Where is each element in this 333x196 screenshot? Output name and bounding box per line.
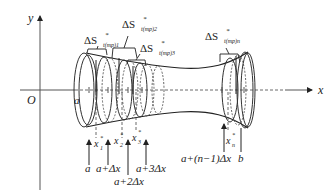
svg-text:1: 1 — [100, 145, 103, 151]
label-a: a — [85, 162, 91, 174]
svg-text:*: * — [226, 27, 230, 35]
label-b: b — [238, 152, 244, 164]
svg-text:*: * — [138, 129, 141, 135]
svg-text:x: x — [131, 132, 137, 143]
sample-point-2: x * 2 — [113, 132, 123, 148]
svg-text:ΔS: ΔS — [84, 34, 97, 46]
svg-text:x: x — [113, 135, 119, 146]
surface-of-revolution-diagram: y x O a Δ — [0, 0, 333, 196]
svg-text:t(mp)1: t(mp)1 — [103, 42, 119, 49]
svg-text:ΔS: ΔS — [205, 30, 218, 42]
svg-text:*: * — [105, 31, 109, 39]
label-a-plus-n-minus-1-dx: a+(n−1)Δx — [181, 152, 231, 165]
surface-label-3: ΔS * t(mp)3 — [140, 39, 175, 57]
svg-text:x: x — [93, 138, 99, 149]
svg-text:*: * — [232, 132, 235, 138]
surface-label-1: ΔS * t(mp)1 — [84, 31, 119, 49]
x-axis-label: x — [317, 83, 324, 97]
sample-point-1: x * 1 — [93, 135, 103, 151]
svg-text:2: 2 — [120, 142, 123, 148]
label-a-plus-dx: a+Δx — [96, 162, 120, 174]
svg-text:t(mp)3: t(mp)3 — [159, 50, 175, 57]
surface-label-n: ΔS * t(mp)n — [205, 27, 240, 45]
y-axis-label: y — [27, 11, 34, 25]
label-a-plus-3dx: a+3Δx — [136, 162, 166, 174]
svg-text:*: * — [143, 15, 147, 23]
label-a-plus-2dx: a+2Δx — [114, 175, 144, 187]
svg-text:ΔS: ΔS — [122, 18, 135, 30]
svg-text:ΔS: ΔS — [140, 42, 153, 54]
origin-label: O — [27, 93, 36, 107]
svg-text:x: x — [225, 135, 231, 146]
svg-text:3: 3 — [137, 139, 141, 145]
a-axis-label: a — [74, 94, 80, 106]
svg-text:*: * — [161, 39, 165, 47]
surface-label-2: ΔS * t(mp)2 — [122, 15, 157, 33]
sample-point-n: x * n — [225, 132, 235, 148]
sample-point-3: x * 3 — [131, 129, 141, 145]
svg-text:t(mp)2: t(mp)2 — [141, 26, 157, 33]
svg-text:t(mp)n: t(mp)n — [224, 38, 240, 45]
svg-text:*: * — [100, 135, 103, 141]
svg-text:*: * — [120, 132, 123, 138]
svg-text:n: n — [232, 142, 235, 148]
